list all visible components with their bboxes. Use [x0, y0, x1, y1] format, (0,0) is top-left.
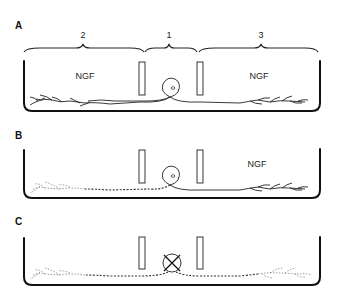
ngf-label-left-a: NGF [76, 71, 96, 81]
dead-neuron-c [30, 254, 312, 279]
brace-region-2 [24, 44, 144, 52]
neuron-b [30, 166, 308, 193]
neuron-a [30, 78, 308, 106]
brace-region-1 [145, 44, 197, 52]
barrier-right-c [197, 237, 203, 269]
panel-b: B NGF [15, 130, 320, 198]
ngf-label-right-b: NGF [248, 159, 268, 169]
panel-a-label: A [15, 20, 22, 31]
compartmented-culture-diagram: A 2 1 3 NGF NGF B [0, 0, 337, 303]
degenerated-axon-right-c [176, 272, 258, 276]
axon-right-a [170, 97, 305, 103]
region-3-number: 3 [258, 30, 263, 40]
barrier-left-a [139, 62, 145, 95]
barrier-left-c [139, 237, 145, 269]
panel-a: A 2 1 3 NGF NGF [15, 20, 320, 111]
cell-body-icon [162, 166, 179, 185]
region-1-number: 1 [166, 30, 171, 40]
region-2-number: 2 [80, 30, 85, 40]
ngf-label-right-a: NGF [250, 71, 270, 81]
degenerated-axon-left-c [85, 272, 168, 276]
panel-b-label: B [15, 130, 22, 141]
cell-body-icon [162, 78, 179, 97]
barrier-right-b [197, 150, 203, 183]
barrier-left-b [139, 150, 145, 183]
brace-region-3 [199, 44, 318, 52]
degenerated-axon-left-b [85, 185, 170, 190]
panel-c-label: C [15, 216, 22, 227]
barrier-right-a [197, 62, 203, 95]
panel-c: C [15, 216, 320, 285]
